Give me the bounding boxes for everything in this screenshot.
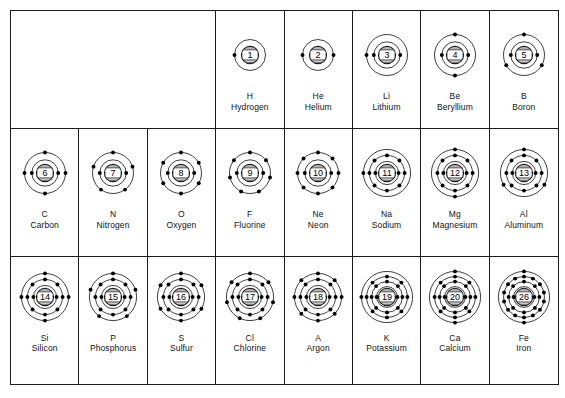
svg-text:10: 10: [313, 168, 323, 178]
svg-text:7: 7: [111, 168, 116, 178]
element-labels: FeIron: [516, 333, 531, 354]
svg-text:19: 19: [382, 292, 392, 302]
element-name: Oxygen: [166, 220, 196, 231]
element-cell-sulfur: 16SSulfur: [148, 257, 216, 385]
element-name: Beryllium: [437, 102, 473, 113]
svg-text:1: 1: [247, 50, 252, 60]
element-labels: BeBeryllium: [437, 91, 473, 112]
atom-diagram-icon: 4: [423, 23, 487, 87]
svg-text:17: 17: [245, 292, 255, 302]
svg-text:3: 3: [384, 50, 389, 60]
atom-diagram-icon: 16: [149, 265, 213, 329]
element-symbol: F: [234, 209, 266, 220]
atom-diagram-icon: 13: [492, 141, 556, 205]
element-symbol: Ne: [308, 209, 329, 220]
element-cell-oxygen: 8OOxygen: [148, 129, 216, 257]
element-labels: KPotassium: [366, 333, 407, 354]
element-symbol: Be: [437, 91, 473, 102]
atom-diagram-icon: 26: [492, 265, 556, 329]
element-labels: HeHelium: [305, 91, 332, 112]
element-labels: MgMagnesium: [433, 209, 478, 230]
svg-text:14: 14: [40, 292, 50, 302]
element-symbol: Ca: [439, 333, 470, 344]
atom-diagram-icon: 2: [286, 23, 350, 87]
element-cell-silicon: 14SiSilicon: [11, 257, 79, 385]
svg-text:13: 13: [519, 168, 529, 178]
element-grid: 1HHydrogen2HeHelium3LiLithium4BeBerylliu…: [10, 10, 559, 385]
element-labels: ClChlorine: [234, 333, 266, 354]
atom-diagram-icon: 19: [355, 265, 419, 329]
element-cell-aluminum: 13AlAluminum: [490, 129, 558, 257]
element-symbol: S: [170, 333, 193, 344]
svg-text:20: 20: [450, 292, 460, 302]
element-symbol: Al: [505, 209, 544, 220]
element-labels: BBoron: [512, 91, 535, 112]
atom-diagram-icon: 10: [286, 141, 350, 205]
element-cell-chlorine: 17ClChlorine: [216, 257, 284, 385]
atom-diagram-icon: 12: [423, 141, 487, 205]
element-labels: LiLithium: [373, 91, 401, 112]
svg-text:18: 18: [313, 292, 323, 302]
atom-diagram-icon: 6: [13, 141, 77, 205]
atom-diagram-icon: 17: [218, 265, 282, 329]
element-cell-calcium: 20CaCalcium: [421, 257, 489, 385]
element-name: Magnesium: [433, 220, 478, 231]
element-labels: AArgon: [307, 333, 330, 354]
atom-diagram-icon: 5: [492, 23, 556, 87]
svg-text:2: 2: [316, 50, 321, 60]
svg-text:16: 16: [176, 292, 186, 302]
atom-diagram-icon: 20: [423, 265, 487, 329]
element-symbol: Si: [32, 333, 58, 344]
element-cell-neon: 10NeNeon: [285, 129, 353, 257]
element-labels: CaCalcium: [439, 333, 470, 354]
element-cell-carbon: 6CCarbon: [11, 129, 79, 257]
element-labels: AlAluminum: [505, 209, 544, 230]
element-symbol: O: [166, 209, 196, 220]
element-symbol: K: [366, 333, 407, 344]
element-labels: NeNeon: [308, 209, 329, 230]
element-name: Chlorine: [234, 343, 266, 354]
empty-cell: [11, 11, 216, 129]
element-name: Nitrogen: [97, 220, 130, 231]
element-name: Neon: [308, 220, 329, 231]
element-symbol: B: [512, 91, 535, 102]
element-name: Lithium: [373, 102, 401, 113]
element-cell-beryllium: 4BeBeryllium: [421, 11, 489, 129]
atom-diagram-icon: 11: [355, 141, 419, 205]
element-name: Boron: [512, 102, 535, 113]
element-name: Sodium: [372, 220, 401, 231]
element-cell-potassium: 19KPotassium: [353, 257, 421, 385]
element-symbol: P: [90, 333, 136, 344]
element-symbol: A: [307, 333, 330, 344]
element-symbol: Na: [372, 209, 401, 220]
element-symbol: Mg: [433, 209, 478, 220]
element-labels: NNitrogen: [97, 209, 130, 230]
atom-diagram-icon: 8: [149, 141, 213, 205]
svg-text:15: 15: [108, 292, 118, 302]
svg-text:11: 11: [382, 168, 391, 178]
element-cell-magnesium: 12MgMagnesium: [421, 129, 489, 257]
element-labels: OOxygen: [166, 209, 196, 230]
element-symbol: Li: [373, 91, 401, 102]
svg-text:5: 5: [521, 50, 526, 60]
element-labels: HHydrogen: [231, 91, 269, 112]
element-name: Carbon: [30, 220, 58, 231]
element-labels: CCarbon: [30, 209, 58, 230]
element-cell-hydrogen: 1HHydrogen: [216, 11, 284, 129]
atom-diagram-icon: 15: [81, 265, 145, 329]
atomic-structure-chart: 1HHydrogen2HeHelium3LiLithium4BeBerylliu…: [0, 0, 565, 398]
element-cell-phosphorus: 15PPhosphorus: [79, 257, 147, 385]
element-name: Potassium: [366, 343, 407, 354]
element-name: Silicon: [32, 343, 58, 354]
element-symbol: Fe: [516, 333, 531, 344]
element-name: Aluminum: [505, 220, 544, 231]
element-cell-fluorine: 9FFluorine: [216, 129, 284, 257]
element-labels: SSulfur: [170, 333, 193, 354]
atom-diagram-icon: 3: [355, 23, 419, 87]
element-cell-argon: 18AArgon: [285, 257, 353, 385]
element-name: Iron: [516, 343, 531, 354]
element-cell-lithium: 3LiLithium: [353, 11, 421, 129]
atom-diagram-icon: 7: [81, 141, 145, 205]
element-labels: PPhosphorus: [90, 333, 136, 354]
element-symbol: He: [305, 91, 332, 102]
